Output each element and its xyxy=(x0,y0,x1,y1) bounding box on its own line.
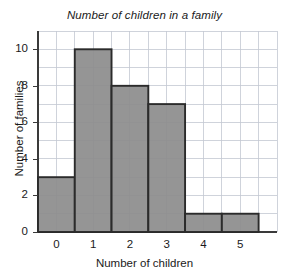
histogram-bar xyxy=(148,104,185,232)
y-tick-mark xyxy=(33,49,38,50)
x-tick-label: 5 xyxy=(228,238,252,250)
y-tick-label: 0 xyxy=(4,226,28,238)
histogram-bar xyxy=(185,214,222,232)
bars-layer xyxy=(38,31,277,232)
histogram-figure: Number of children in a family 0246810 0… xyxy=(0,0,289,278)
x-tick-label: 4 xyxy=(191,238,215,250)
y-tick-mark xyxy=(33,86,38,87)
x-axis-title: Number of children xyxy=(0,257,289,270)
y-tick-mark xyxy=(33,122,38,123)
x-tick-label: 1 xyxy=(81,238,105,250)
histogram-bar xyxy=(222,214,259,232)
y-tick-mark xyxy=(33,232,38,233)
histogram-bar xyxy=(38,177,75,232)
y-tick-mark xyxy=(33,195,38,196)
y-tick-mark xyxy=(33,159,38,160)
histogram-bar xyxy=(112,86,149,232)
chart-title: Number of children in a family xyxy=(0,9,289,22)
histogram-bar xyxy=(75,49,112,232)
plot-area xyxy=(38,31,277,232)
x-tick-label: 2 xyxy=(118,238,142,250)
x-tick-label: 3 xyxy=(155,238,179,250)
x-tick-label: 0 xyxy=(44,238,68,250)
y-axis-title: Number of families xyxy=(13,54,26,204)
